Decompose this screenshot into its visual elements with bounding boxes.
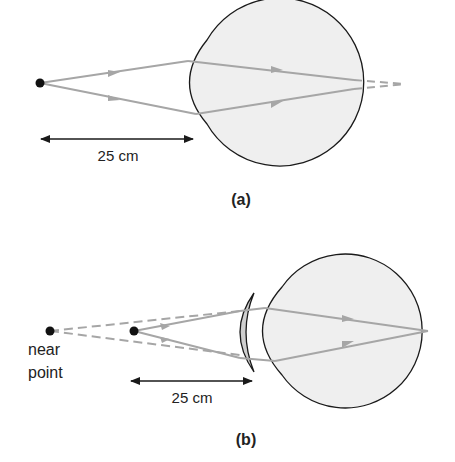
- eyeball-b: [263, 254, 423, 408]
- panel-a: 25 cm (a): [36, 0, 406, 208]
- distance-label-a: 25 cm: [98, 147, 139, 164]
- diagram-canvas: 25 cm (a) near: [0, 0, 455, 462]
- caption-b: (b): [236, 431, 256, 448]
- near-point-label-line1: near: [28, 341, 61, 358]
- near-point-dot: [46, 327, 55, 336]
- near-point-label-line2: point: [28, 364, 63, 381]
- distance-label-b: 25 cm: [172, 389, 213, 406]
- object-point-a: [36, 79, 45, 88]
- panel-b: near point 25 cm (b): [28, 254, 428, 448]
- object-point-b: [130, 327, 139, 336]
- corrective-lens: [240, 293, 254, 372]
- eyeball-a: [190, 0, 364, 166]
- caption-a: (a): [231, 191, 251, 208]
